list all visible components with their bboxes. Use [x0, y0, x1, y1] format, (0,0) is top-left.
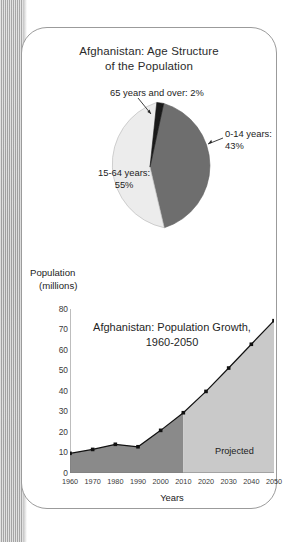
pie-label-elderly: 65 years and over: 2%: [110, 87, 204, 99]
pie-title-line-2: of the Population: [22, 59, 276, 74]
data-point-marker: [227, 366, 231, 370]
pie-label-children-line-2: 43%: [225, 140, 272, 152]
data-point-marker: [204, 390, 208, 394]
y-axis-tick-label: 60: [46, 345, 68, 355]
data-point-marker: [272, 319, 274, 323]
y-axis-label: Population (millions): [30, 267, 77, 292]
x-axis-title: Years: [70, 492, 274, 503]
y-axis-tick-label: 30: [46, 406, 68, 416]
data-point-marker: [159, 429, 163, 433]
y-axis-tick-label: 10: [46, 447, 68, 457]
x-axis-tick-labels: 1960197019801990200020102020203020402050: [55, 477, 287, 491]
area-historical: [70, 413, 183, 473]
y-axis-tick-label: 50: [46, 365, 68, 375]
growth-title-line-1: Afghanistan: Population Growth,: [74, 320, 270, 335]
figure-card: Afghanistan: Age Structure of the Popula…: [21, 27, 277, 509]
growth-title-line-2: 1960-2050: [74, 335, 270, 350]
growth-chart-title: Afghanistan: Population Growth, 1960-205…: [74, 320, 270, 350]
projected-region-label: Projected: [215, 446, 254, 456]
data-point-marker: [70, 452, 72, 456]
pie-label-working-line-2: 55%: [98, 179, 150, 191]
y-axis-tick-label: 0: [46, 468, 68, 478]
data-point-marker: [114, 443, 118, 447]
figure-page: Afghanistan: Age Structure of the Popula…: [0, 0, 287, 542]
data-point-marker: [136, 445, 140, 449]
y-axis-tick-label: 70: [46, 324, 68, 334]
y-axis-tick-label: 80: [46, 304, 68, 314]
y-axis-tick-label: 40: [46, 386, 68, 396]
pie-title-line-1: Afghanistan: Age Structure: [22, 44, 276, 59]
data-point-marker: [182, 411, 186, 415]
y-axis-label-line-1: Population: [30, 267, 77, 280]
pie-chart-title: Afghanistan: Age Structure of the Popula…: [22, 44, 276, 74]
pie-label-working: 15-64 years: 55%: [98, 167, 150, 191]
pie-label-working-line-1: 15-64 years:: [98, 167, 150, 179]
paper-edge-texture: [0, 0, 23, 542]
data-point-marker: [91, 448, 95, 452]
y-axis-tick-labels: 01020304050607080: [42, 309, 68, 473]
x-axis-tick-label: 2050: [259, 477, 287, 486]
pie-label-children-line-1: 0-14 years:: [225, 128, 272, 140]
pie-label-children: 0-14 years: 43%: [225, 128, 272, 152]
y-axis-tick-label: 20: [46, 427, 68, 437]
y-axis-label-line-2: (millions): [30, 280, 77, 293]
